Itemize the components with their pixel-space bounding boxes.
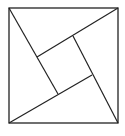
line-bottom-left <box>9 75 92 123</box>
line-top-left <box>9 8 58 94</box>
line-top-right <box>37 8 118 57</box>
outer-square <box>9 8 118 123</box>
pinwheel-square-diagram <box>0 0 125 136</box>
line-bottom-right <box>73 36 118 123</box>
